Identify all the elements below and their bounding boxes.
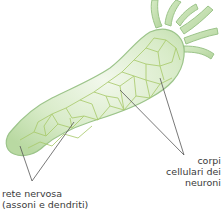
label-neuron-cell-bodies-line3: neuroni [166,177,221,188]
label-nerve-net-line2: (assoni e dendriti) [2,199,88,210]
label-neuron-cell-bodies-line1: corpi [166,155,221,166]
label-neuron-cell-bodies: corpi cellulari dei neuroni [166,155,221,188]
label-nerve-net-line1: rete nervosa [2,188,88,199]
label-nerve-net: rete nervosa (assoni e dendriti) [2,188,88,210]
label-neuron-cell-bodies-line2: cellulari dei [166,166,221,177]
